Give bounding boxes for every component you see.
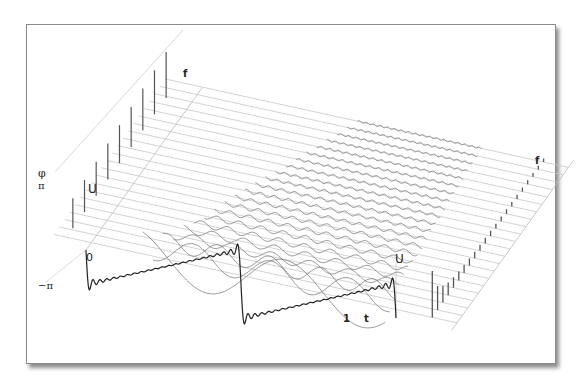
phase-min-guide	[45, 250, 86, 283]
amp-freq-axis-line	[452, 160, 574, 330]
grid-line	[155, 94, 558, 182]
phase-max-label: π	[38, 181, 45, 191]
harmonic-curve	[153, 244, 390, 312]
grid-line	[165, 79, 568, 167]
grid-line	[107, 160, 510, 248]
grid-line	[54, 234, 457, 322]
time-origin-label: 0	[86, 252, 93, 263]
grid-line	[59, 227, 462, 315]
amplitude-axis-label-right: U	[395, 253, 404, 265]
grid-line	[150, 101, 553, 189]
harmonic-curve	[184, 225, 404, 276]
grid-line	[86, 190, 489, 278]
time-end-label: 1	[343, 314, 350, 324]
grid-line	[118, 146, 521, 234]
phase-min-label: −π	[38, 281, 53, 291]
grid-line	[160, 86, 563, 174]
time-axis-label: t	[364, 314, 369, 324]
amplitude-axis-label-left: U	[88, 183, 97, 195]
grid-line	[81, 197, 484, 285]
grid-line	[75, 205, 478, 293]
grid-line	[102, 168, 505, 256]
freq-axis-label-left: f	[183, 69, 187, 79]
grid-line	[128, 131, 531, 219]
grid-line	[123, 138, 526, 226]
grid-line	[112, 153, 515, 241]
grid-line	[144, 109, 547, 197]
grid-line	[97, 175, 500, 263]
freq-axis-label-right: f	[535, 156, 539, 166]
phase-axis-label: φ	[38, 168, 46, 179]
